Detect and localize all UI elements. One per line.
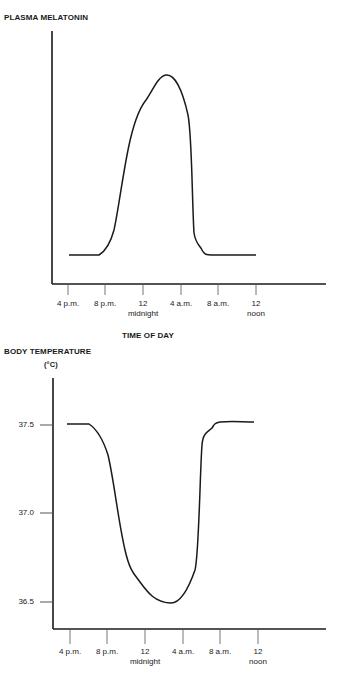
y-tick-label: 37.0 [4,508,34,517]
y-tick-label: 37.5 [4,420,34,429]
x-tick-label: 12noon [231,299,281,319]
y-tick-label: 36.5 [4,597,34,606]
melatonin-x-axis-title: TIME OF DAY [122,331,174,340]
temperature-axes [40,378,326,644]
x-tick-label: 12noon [233,647,283,667]
temperature-curve [67,422,254,603]
melatonin-curve [69,75,256,255]
temperature-chart-title: BODY TEMPERATURE [4,347,91,356]
temperature-unit: (°C) [44,360,58,369]
